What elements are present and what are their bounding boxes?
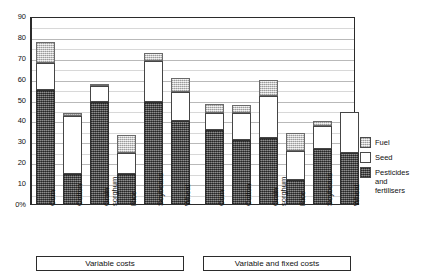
x-axis-tick-label: Corn bbox=[49, 187, 57, 206]
y-axis-tick-label: 80 bbox=[2, 34, 26, 42]
bar-segment bbox=[232, 105, 251, 113]
legend-swatch-icon bbox=[360, 167, 371, 178]
bar-segment bbox=[286, 133, 305, 151]
bar-segment bbox=[171, 78, 190, 93]
bar-segment bbox=[63, 116, 82, 173]
bar-segment bbox=[63, 113, 82, 116]
y-axis-tick-label: 10 bbox=[2, 180, 26, 188]
bar-segment bbox=[259, 80, 278, 97]
group-caption-variable-and-fixed-costs: Variable and fixed costs bbox=[203, 256, 351, 271]
bar-segment bbox=[313, 121, 332, 125]
bar-segment bbox=[90, 84, 109, 86]
chart-legend: FuelSeedPesticides and fertilisers bbox=[360, 137, 428, 199]
bar-segment bbox=[117, 153, 136, 174]
x-axis-tick-label: Wheat bbox=[184, 187, 192, 206]
x-axis-tick-label: Soybeans bbox=[157, 187, 165, 206]
x-axis-tick-label: Soybeans bbox=[326, 187, 334, 206]
bar-segment bbox=[36, 42, 55, 63]
legend-swatch-icon bbox=[360, 152, 371, 163]
y-axis-tick-label: 70 bbox=[2, 55, 26, 63]
y-axis-tick-label: 40 bbox=[2, 117, 26, 125]
bars-layer bbox=[30, 17, 355, 205]
legend-label: Pesticides and fertilisers bbox=[375, 167, 409, 195]
bar-segment bbox=[340, 112, 359, 153]
legend-item: Seed bbox=[360, 152, 428, 163]
bar-segment bbox=[313, 126, 332, 149]
x-axis-category-labels: CornCottonGrainsorghumRiceSoybeansWheatC… bbox=[30, 206, 355, 256]
bar-segment bbox=[205, 113, 224, 130]
bar bbox=[36, 42, 55, 205]
x-axis-tick-label: Grainsorghum bbox=[272, 187, 289, 206]
bar-segment bbox=[259, 96, 278, 138]
bar-segment bbox=[36, 63, 55, 90]
x-axis-tick-label: Corn bbox=[218, 187, 226, 206]
bar-segment bbox=[171, 92, 190, 121]
y-axis-tick-label: 20 bbox=[2, 159, 26, 167]
group-caption-variable-costs: Variable costs bbox=[36, 256, 184, 271]
y-axis-tick-label: 60 bbox=[2, 76, 26, 84]
x-axis-tick-label: Grainsorghum bbox=[103, 187, 120, 206]
legend-label: Fuel bbox=[375, 137, 390, 147]
bar-segment bbox=[286, 151, 305, 180]
y-axis-tick-label: 50 bbox=[2, 97, 26, 105]
bar-segment bbox=[90, 86, 109, 102]
y-axis-tick-label: 90 bbox=[2, 13, 26, 21]
legend-item: Pesticides and fertilisers bbox=[360, 167, 428, 195]
chart-container: 9080706050403020100% CornCottonGrainsorg… bbox=[0, 0, 430, 278]
x-axis-tick-label: Cotton bbox=[245, 187, 253, 206]
bar-segment bbox=[232, 113, 251, 140]
bar-segment bbox=[205, 104, 224, 113]
y-axis-tick-label: 30 bbox=[2, 138, 26, 146]
bar-segment bbox=[117, 135, 136, 153]
x-axis-tick-label: Rice bbox=[299, 187, 307, 206]
legend-swatch-icon bbox=[360, 137, 371, 148]
x-axis-tick-label: Cotton bbox=[76, 187, 84, 206]
legend-item: Fuel bbox=[360, 137, 428, 148]
y-axis-tick-label: 0% bbox=[2, 201, 26, 209]
legend-label: Seed bbox=[375, 152, 393, 162]
bar-segment bbox=[144, 53, 163, 61]
bar-segment bbox=[144, 61, 163, 102]
x-axis-tick-label: Rice bbox=[130, 187, 138, 206]
